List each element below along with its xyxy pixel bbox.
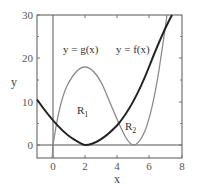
y-tick-label-0: 0 xyxy=(28,139,34,151)
x-tick-label-4: 4 xyxy=(114,160,120,172)
x-axis-title: x xyxy=(114,172,120,186)
y-tick-label-10: 10 xyxy=(22,96,34,108)
label-f: y = f(x) xyxy=(116,43,150,56)
x-tick-label-6: 6 xyxy=(146,160,152,172)
chart: 0 10 20 30 0 2 4 6 8 x y y = g(x) y = f(… xyxy=(0,0,198,188)
plot-frame xyxy=(37,15,182,158)
y-axis-title: y xyxy=(11,75,17,89)
y-tick-label-30: 30 xyxy=(22,9,34,21)
x-tick-label-2: 2 xyxy=(82,160,88,172)
label-region-2: R2 xyxy=(125,120,136,135)
curve-f xyxy=(37,15,172,145)
label-region-1: R1 xyxy=(77,104,88,119)
x-tick-label-0: 0 xyxy=(50,160,56,172)
y-tick-label-20: 20 xyxy=(22,52,34,64)
x-tick-label-8: 8 xyxy=(179,160,185,172)
label-g: y = g(x) xyxy=(63,43,99,56)
